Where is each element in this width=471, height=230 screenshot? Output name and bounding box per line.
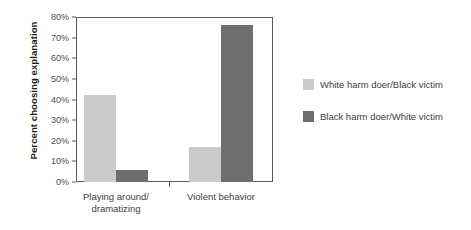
y-axis-tick: 30%: [51, 116, 76, 125]
y-axis-tick-mark: [72, 140, 76, 141]
y-axis-tick: 50%: [51, 74, 76, 83]
y-axis-tick: 60%: [51, 54, 76, 63]
plot-area: 0%10%20%30%40%50%60%70%80% Playing aroun…: [76, 17, 273, 182]
y-axis-tick-label: 50%: [51, 74, 72, 83]
bar-chart-figure: Percent choosing explanation 0%10%20%30%…: [0, 0, 471, 230]
y-axis-tick-mark: [72, 17, 76, 18]
y-axis-title: Percent choosing explanation: [28, 0, 39, 186]
y-axis-tick-mark: [72, 161, 76, 162]
y-axis-tick-label: 40%: [51, 95, 72, 104]
y-axis-tick-label: 0%: [56, 178, 72, 187]
y-axis-tick: 40%: [51, 95, 76, 104]
y-axis-tick: 80%: [51, 13, 76, 22]
y-axis-tick-mark: [72, 58, 76, 59]
legend-label: White harm doer/Black victim: [320, 80, 443, 90]
chart-legend: White harm doer/Black victimBlack harm d…: [303, 79, 468, 143]
y-axis-tick: 0%: [56, 178, 76, 187]
legend-item: Black harm doer/White victim: [303, 111, 468, 122]
y-axis-tick: 70%: [51, 33, 76, 42]
y-axis-tick-label: 10%: [51, 157, 72, 166]
y-axis-tick-label: 30%: [51, 116, 72, 125]
y-axis-tick-mark: [72, 182, 76, 183]
bar: [116, 170, 148, 182]
bar: [221, 25, 253, 182]
legend-swatch: [303, 79, 314, 90]
bar: [84, 95, 116, 182]
y-axis-tick-mark: [72, 99, 76, 100]
y-axis-tick-label: 60%: [51, 54, 72, 63]
legend-swatch: [303, 111, 314, 122]
y-axis-tick: 20%: [51, 136, 76, 145]
y-axis-tick-label: 20%: [51, 136, 72, 145]
legend-label: Black harm doer/White victim: [320, 112, 443, 122]
y-axis-tick-mark: [72, 120, 76, 121]
y-axis-tick-label: 80%: [51, 13, 72, 22]
x-axis-group-label: Violent behavior: [187, 191, 255, 203]
y-axis-tick-mark: [72, 78, 76, 79]
x-axis-group-label-line: dramatizing: [83, 203, 149, 215]
x-axis-group-label-line: Violent behavior: [187, 191, 255, 203]
x-axis-group-label-line: Playing around/: [83, 191, 149, 203]
y-axis-tick-mark: [72, 37, 76, 38]
x-axis-separator-tick: [169, 182, 170, 187]
y-axis-tick-label: 70%: [51, 33, 72, 42]
legend-item: White harm doer/Black victim: [303, 79, 468, 90]
y-axis-tick: 10%: [51, 157, 76, 166]
x-axis-group-label: Playing around/dramatizing: [83, 191, 149, 214]
bar: [189, 147, 221, 182]
